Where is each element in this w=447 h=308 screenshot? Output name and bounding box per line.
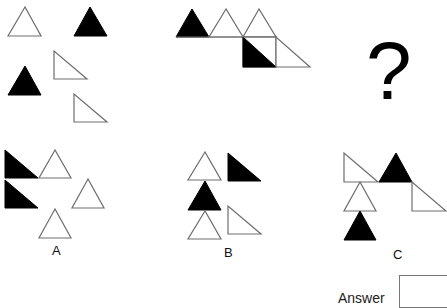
figure-2-group (176, 9, 310, 67)
puzzle-stage: ? A B C Answer (0, 0, 447, 308)
option-c-group[interactable] (344, 153, 446, 240)
white-equilateral-triangle-shape (188, 152, 221, 180)
black-right-triangle-shape (5, 180, 38, 208)
option-b-group[interactable] (188, 152, 261, 239)
option-b-label[interactable]: B (224, 245, 233, 260)
white-equilateral-triangle-shape (209, 9, 243, 37)
black-equilateral-triangle-shape (188, 181, 221, 210)
white-equilateral-triangle-shape (39, 209, 71, 238)
black-right-triangle-shape (228, 153, 261, 181)
white-right-triangle-shape (344, 153, 378, 182)
white-equilateral-triangle-shape (39, 150, 71, 178)
option-a-label[interactable]: A (52, 243, 61, 258)
black-equilateral-triangle-shape (74, 7, 107, 36)
black-equilateral-triangle-shape (176, 9, 209, 37)
white-equilateral-triangle-shape (8, 7, 41, 36)
white-equilateral-triangle-shape (243, 9, 276, 37)
question-mark: ? (366, 30, 412, 112)
white-right-triangle-shape (228, 206, 261, 234)
option-a-group[interactable] (5, 150, 104, 238)
white-right-triangle-shape (412, 182, 446, 211)
option-c-label[interactable]: C (393, 247, 402, 262)
white-right-triangle-shape (276, 37, 310, 67)
white-right-triangle-shape (74, 94, 107, 122)
black-equilateral-triangle-shape (344, 211, 376, 240)
white-equilateral-triangle-shape (188, 211, 221, 239)
answer-label: Answer (338, 290, 385, 306)
black-right-triangle-shape (5, 150, 38, 178)
black-equilateral-triangle-shape (379, 153, 412, 182)
white-equilateral-triangle-shape (344, 182, 376, 211)
black-equilateral-triangle-shape (8, 66, 41, 95)
white-right-triangle-shape (54, 51, 87, 79)
white-equilateral-triangle-shape (72, 179, 104, 208)
figure-1-group (8, 7, 107, 122)
answer-input-box[interactable] (399, 275, 447, 308)
